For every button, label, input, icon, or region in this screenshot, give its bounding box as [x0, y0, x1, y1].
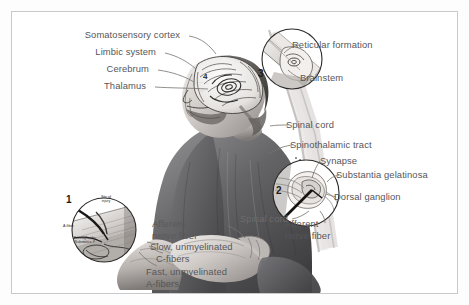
label-dorsal-ganglion: Dorsal ganglion [334, 191, 401, 202]
label-synapse: Synapse [320, 155, 357, 166]
label-thalamus: Thalamus [0, 80, 146, 91]
label-somatosensory-cortex: Somatosensory cortex [0, 29, 180, 40]
label-c-fibers: C-fibers [156, 253, 190, 264]
label-slow-unmyelinated: Slow, unmyelinated [150, 241, 233, 252]
label-spinal-cord-lower: Spinal cord [240, 213, 288, 224]
callout-number-4: 4 [203, 72, 207, 81]
label-cerebrum: Cerebrum [0, 63, 149, 74]
label-spinal-cord-upper: Spinal cord [286, 119, 334, 130]
callout-number-3: 3 [258, 68, 264, 79]
label-reticular-formation: Reticular formation [292, 39, 373, 50]
label-afferent-nerve-fiber-left-line1: Afferent [152, 218, 185, 229]
callout-number-2: 2 [276, 185, 282, 196]
label-fast-unmyelinated: Fast, unmyelinated [146, 266, 227, 277]
label-afferent-nerve-fiber-left-line2: nerve fiber [152, 230, 197, 241]
label-limbic-system: Limbic system [0, 46, 156, 57]
inset-label-prostaglandin-line2: Substance P [72, 240, 98, 244]
inset-label-site-of-injury-line2: injury [95, 199, 117, 203]
inset-label-a-fiber: A-fiber [63, 224, 87, 228]
label-brainstem: Brainstem [300, 72, 343, 83]
label-spinothalamic-tract: Spinothalamic tract [290, 139, 372, 150]
callout-number-1: 1 [66, 194, 72, 205]
label-a-fibers: A-fibers [146, 278, 179, 289]
label-afferent-nerve-fiber-right-line2: nerve fiber [285, 230, 330, 241]
pain-pathway-figure: Somatosensory cortex Limbic system Cereb… [0, 0, 469, 305]
label-substantia-gelatinosa: Substantia gelatinosa [336, 169, 428, 180]
label-afferent-nerve-fiber-right-line1: Afferent [285, 218, 318, 229]
